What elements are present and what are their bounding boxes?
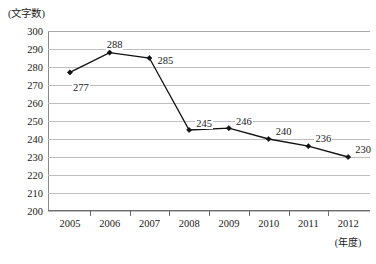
data-label-2007: 285 xyxy=(156,55,174,66)
x-tick-label-2005: 2005 xyxy=(59,218,80,229)
data-label-2009: 246 xyxy=(235,116,253,127)
x-tick-label-2007: 2007 xyxy=(139,218,160,229)
x-tick-label-2009: 2009 xyxy=(218,218,239,229)
y-tick-label: 260 xyxy=(27,98,43,109)
data-label-2006: 288 xyxy=(106,39,124,50)
data-label-2005: 277 xyxy=(72,82,90,93)
data-point-2009 xyxy=(226,126,231,131)
line-chart: (文字数) 300290280270260250240230220210200 … xyxy=(0,0,376,264)
plot-area: 300290280270260250240230220210200 200520… xyxy=(48,31,370,211)
x-tick-boundary-6 xyxy=(289,211,290,216)
data-label-2011: 236 xyxy=(314,133,332,144)
y-tick-label: 230 xyxy=(27,152,43,163)
y-tick-label: 210 xyxy=(27,188,43,199)
data-point-2007 xyxy=(147,55,152,60)
y-tick-label: 250 xyxy=(27,116,43,127)
data-label-2010: 240 xyxy=(275,126,293,137)
y-tick-label: 200 xyxy=(27,206,43,217)
x-axis-unit-label: (年度) xyxy=(335,234,362,249)
x-tick-label-2012: 2012 xyxy=(338,218,359,229)
series-line-文字数 xyxy=(70,53,348,157)
x-tick-boundary-7 xyxy=(328,211,329,216)
data-label-2012: 230 xyxy=(354,144,372,155)
y-tick-label: 270 xyxy=(27,80,43,91)
y-tick-label: 280 xyxy=(27,62,43,73)
data-point-2011 xyxy=(306,144,311,149)
x-tick-label-2011: 2011 xyxy=(298,218,319,229)
x-tick-label-2010: 2010 xyxy=(258,218,279,229)
data-point-2005 xyxy=(67,70,72,75)
x-tick-boundary-1 xyxy=(90,211,91,216)
x-tick-boundary-5 xyxy=(249,211,250,216)
data-point-2012 xyxy=(346,154,351,159)
data-point-2010 xyxy=(266,136,271,141)
x-tick-label-2006: 2006 xyxy=(99,218,120,229)
y-tick-label: 290 xyxy=(27,44,43,55)
data-label-2008: 245 xyxy=(195,118,213,129)
y-tick-label: 300 xyxy=(27,26,43,37)
data-point-2006 xyxy=(107,50,112,55)
x-tick-boundary-2 xyxy=(130,211,131,216)
x-tick-label-2008: 2008 xyxy=(179,218,200,229)
y-tick-label: 220 xyxy=(27,170,43,181)
data-point-2008 xyxy=(187,127,192,132)
y-tick-label: 240 xyxy=(27,134,43,145)
x-tick-boundary-4 xyxy=(209,211,210,216)
x-tick-boundary-3 xyxy=(169,211,170,216)
y-axis-unit-label: (文字数) xyxy=(8,5,45,20)
series-marker-group xyxy=(67,50,350,160)
